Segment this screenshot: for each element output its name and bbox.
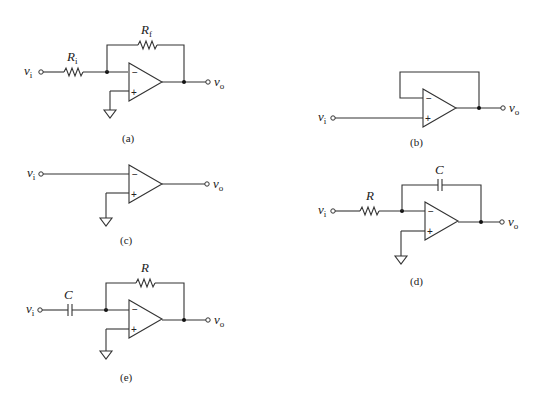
output-label-c: vo: [213, 176, 224, 193]
resistor-r-icon: [360, 207, 379, 215]
ground-icon: [100, 351, 112, 359]
resistor-label-r: R: [365, 188, 374, 203]
resistor-label-ri: Ri: [66, 49, 78, 66]
output-terminal-b: [501, 106, 505, 110]
circuit-d: vi R C − + vo (d): [318, 162, 519, 288]
input-label-a: vi: [24, 63, 33, 80]
caption-b: (b): [410, 136, 423, 149]
input-label-b: vi: [318, 109, 327, 126]
noninverting-sign-a: +: [131, 87, 137, 98]
input-label-d: vi: [318, 202, 327, 219]
resistor-label-r: R: [140, 260, 149, 275]
capacitor-c-icon: [68, 304, 72, 316]
noninverting-sign-e: +: [131, 324, 137, 335]
input-terminal-c: [39, 172, 43, 176]
resistor-r-icon: [136, 279, 155, 287]
output-terminal-e: [206, 318, 210, 322]
circuit-e: vi C R − + vo (e): [26, 260, 225, 384]
capacitor-c-icon: [438, 179, 442, 191]
circuit-b: vi − + vo (b): [318, 72, 520, 149]
output-terminal-d: [500, 220, 504, 224]
inverting-sign-b: −: [426, 93, 432, 104]
caption-a: (a): [122, 132, 135, 145]
input-label-e: vi: [26, 301, 35, 318]
inverting-sign-c: −: [132, 169, 138, 180]
output-label-a: vo: [214, 74, 225, 91]
output-terminal-c: [205, 182, 209, 186]
input-terminal-e: [38, 308, 42, 312]
noninverting-sign-d: +: [427, 226, 433, 237]
input-terminal-a: [39, 70, 43, 74]
noninverting-sign-c: +: [131, 189, 137, 200]
caption-d: (d): [410, 275, 423, 288]
resistor-rf-icon: [138, 41, 157, 49]
output-label-e: vo: [214, 312, 225, 329]
noninverting-sign-b: +: [425, 113, 431, 124]
capacitor-label-c: C: [435, 162, 444, 177]
circuit-a: vi Ri Rf − + vo (a): [24, 22, 225, 145]
input-terminal-d: [331, 209, 335, 213]
input-terminal-b: [331, 116, 335, 120]
opamp-circuits-figure: vi Ri Rf − + vo (a) vi − + vo (b): [0, 0, 541, 394]
ground-icon: [100, 218, 112, 226]
caption-e: (e): [120, 371, 133, 384]
output-label-b: vo: [509, 100, 520, 117]
ground-icon: [395, 256, 407, 264]
caption-c: (c): [120, 234, 133, 247]
ground-icon: [104, 110, 116, 118]
resistor-label-rf: Rf: [140, 22, 152, 39]
inverting-sign-d: −: [428, 206, 434, 217]
capacitor-label-c: C: [64, 287, 73, 302]
circuit-c: vi − + vo (c): [27, 165, 224, 247]
inverting-sign-e: −: [132, 304, 138, 315]
inverting-sign-a: −: [132, 67, 138, 78]
input-label-c: vi: [27, 165, 36, 182]
resistor-ri-icon: [64, 68, 83, 76]
output-terminal-a: [206, 80, 210, 84]
output-label-d: vo: [508, 214, 519, 231]
